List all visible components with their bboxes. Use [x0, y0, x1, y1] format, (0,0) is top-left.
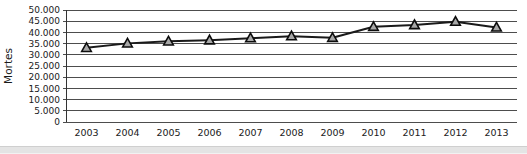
y-tick-label: 5.000: [34, 106, 60, 116]
x-tick-label-2007: 2007: [238, 127, 262, 138]
y-tick-label: 45.000: [29, 16, 61, 26]
x-tick-label-2008: 2008: [279, 127, 303, 138]
y-tick-label: 40.000: [29, 28, 61, 38]
x-tick-label-2006: 2006: [197, 127, 221, 138]
y-tick-label: 10.000: [29, 95, 61, 105]
x-tick-label-2010: 2010: [361, 127, 385, 138]
y-tick-label: 30.000: [29, 50, 61, 60]
y-tick-label: 25.000: [29, 61, 61, 71]
x-tick-label-2012: 2012: [443, 127, 467, 138]
y-tick-label: 15.000: [29, 84, 61, 94]
y-tick-label: 35.000: [29, 39, 61, 49]
x-tick-label-2013: 2013: [484, 127, 508, 138]
y-tick-label: 20.000: [29, 72, 61, 82]
chart-container: 05.00010.00015.00020.00025.00030.00035.0…: [0, 0, 527, 154]
y-axis-title: Mortes: [2, 48, 14, 84]
x-tick-label-2003: 2003: [74, 127, 98, 138]
x-tick-label-2004: 2004: [115, 127, 139, 138]
x-tick-label-2011: 2011: [402, 127, 426, 138]
mortality-line-chart: 05.00010.00015.00020.00025.00030.00035.0…: [0, 0, 527, 154]
x-tick-label-2009: 2009: [320, 127, 344, 138]
page-bottom-edge: [0, 146, 527, 154]
x-tick-label-2005: 2005: [156, 127, 180, 138]
y-tick-label: 50.000: [29, 5, 61, 15]
y-tick-label: 0: [54, 117, 60, 127]
